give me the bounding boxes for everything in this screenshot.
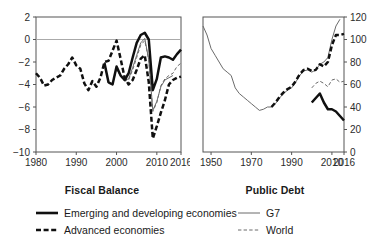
- x-tick-label: 2010: [146, 157, 169, 168]
- legend-item-advanced: Advanced economies: [36, 221, 237, 238]
- legend-label-world: World: [266, 224, 293, 236]
- panels-container: 20−2−4−6−8−1019801990200020102016 Fiscal…: [0, 0, 379, 200]
- y-tick-label: 0: [350, 147, 356, 158]
- public-debt-plot: 02040608010012019501970199020102016: [189, 0, 379, 178]
- x-tick-label: 2016: [333, 157, 356, 168]
- panel-title-fiscal-balance: Fiscal Balance: [0, 184, 190, 196]
- x-tick-label: 2000: [105, 157, 128, 168]
- series-line: [312, 79, 344, 88]
- legend-line-solid-thin-icon: [238, 207, 260, 219]
- y-tick-label: −6: [19, 102, 31, 113]
- x-tick-label: 2016: [170, 157, 190, 168]
- y-tick-label: −10: [13, 147, 30, 158]
- panel-fiscal-balance: 20−2−4−6−8−1019801990200020102016 Fiscal…: [0, 0, 190, 200]
- legend-line-dashed-thin-icon: [238, 224, 260, 236]
- legend-label-advanced: Advanced economies: [64, 224, 164, 236]
- y-tick-label: −8: [19, 124, 31, 135]
- y-tick-label: 120: [350, 12, 367, 23]
- panel-public-debt: 02040608010012019501970199020102016 Publ…: [189, 0, 379, 200]
- figure-root: 20−2−4−6−8−1019801990200020102016 Fiscal…: [0, 0, 379, 249]
- legend-item-world: World: [238, 221, 293, 238]
- series-line: [312, 94, 344, 121]
- legend-label-g7: G7: [266, 207, 280, 219]
- x-tick-label: 1990: [65, 157, 88, 168]
- legend-column-1: Emerging and developing economies Advanc…: [36, 204, 237, 238]
- panel-title-public-debt: Public Debt: [189, 184, 379, 196]
- y-tick-label: 2: [24, 12, 30, 23]
- x-tick-label: 1990: [281, 157, 304, 168]
- y-tick-label: 100: [350, 34, 367, 45]
- y-tick-label: 80: [350, 57, 362, 68]
- y-tick-label: −2: [19, 57, 31, 68]
- legend-line-solid-thick-icon: [36, 207, 58, 219]
- legend-label-emerging: Emerging and developing economies: [64, 207, 237, 219]
- series-line: [36, 41, 181, 139]
- x-tick-label: 1950: [200, 157, 223, 168]
- legend-column-2: G7 World: [238, 204, 293, 238]
- y-tick-label: 40: [350, 102, 362, 113]
- y-tick-label: 60: [350, 79, 362, 90]
- legend-item-emerging: Emerging and developing economies: [36, 204, 237, 221]
- fiscal-balance-plot: 20−2−4−6−8−1019801990200020102016: [0, 0, 190, 178]
- y-tick-label: 20: [350, 124, 362, 135]
- y-tick-label: 0: [24, 34, 30, 45]
- chart-legend: Emerging and developing economies Advanc…: [0, 200, 379, 249]
- legend-line-dashed-thick-icon: [36, 224, 58, 236]
- legend-item-g7: G7: [238, 204, 293, 221]
- x-tick-label: 1970: [240, 157, 263, 168]
- x-tick-label: 1980: [25, 157, 48, 168]
- series-line: [104, 41, 181, 112]
- y-tick-label: −4: [19, 79, 31, 90]
